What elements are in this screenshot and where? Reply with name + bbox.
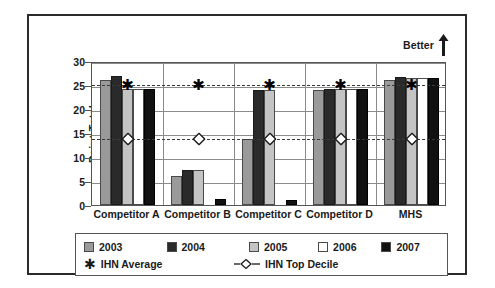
legend-swatch: [381, 242, 391, 252]
y-tick-label: 5: [45, 176, 85, 188]
bar-2007: [144, 89, 155, 205]
legend-label: 2003: [99, 241, 122, 253]
bar-2006: [133, 89, 144, 205]
x-axis-label: Competitor C: [233, 208, 304, 220]
bar-2004: [324, 89, 335, 205]
diamond-icon: [121, 132, 134, 145]
bar-2003: [100, 80, 111, 205]
legend-ihn-average: ✱ IHN Average: [84, 258, 234, 270]
bar-2004: [253, 90, 264, 205]
x-axis-label: MHS: [375, 208, 446, 220]
legend-label: 2005: [264, 241, 287, 253]
diamond-icon: [263, 132, 276, 145]
y-tick-label: 0: [45, 200, 85, 212]
y-tick-mark: [85, 206, 91, 207]
bar-2004: [182, 170, 193, 205]
up-arrow-icon: [438, 34, 449, 56]
diamond-icon: [334, 132, 347, 145]
diamond-line-icon: [234, 258, 260, 270]
legend-item-2004: 2004: [167, 241, 250, 253]
bar-2007: [286, 200, 297, 205]
bar-2007: [215, 199, 226, 205]
bar-2007: [428, 78, 439, 205]
y-axis: 30 25 20 15 10 5 0: [29, 62, 91, 206]
legend-years-row: 20032004200520062007: [84, 238, 439, 255]
chart-figure-frame: Better Point Total 30 25 20 15 10 5 0 ✱✱…: [27, 14, 467, 275]
legend-item-2007: 2007: [381, 241, 439, 253]
x-axis-label: Competitor B: [162, 208, 233, 220]
x-axis-label: Competitor A: [91, 208, 162, 220]
bar-2005: [264, 90, 275, 205]
bar-2005: [335, 89, 346, 205]
bar-2005: [193, 170, 204, 205]
legend-item-2003: 2003: [84, 241, 167, 253]
bar-2003: [313, 90, 324, 205]
better-label: Better: [403, 39, 434, 51]
legend-item-2006: 2006: [318, 241, 381, 253]
bar-2006: [417, 78, 428, 205]
plot-area: ✱✱✱✱✱: [91, 62, 446, 206]
legend-reference-row: ✱ IHN Average IHN Top Decile: [84, 255, 439, 272]
legend-item-2005: 2005: [249, 241, 318, 253]
legend-label: 2004: [182, 241, 205, 253]
legend-swatch: [167, 242, 177, 252]
legend-ihn-top-decile: IHN Top Decile: [234, 258, 338, 270]
legend-label: IHN Top Decile: [265, 258, 338, 270]
diamond-icon: [405, 132, 418, 145]
y-tick-label: 15: [45, 128, 85, 140]
legend-swatch: [84, 242, 94, 252]
y-tick-label: 30: [45, 56, 85, 68]
diamond-icon: [192, 132, 205, 145]
bar-2003: [384, 80, 395, 205]
y-tick-label: 10: [45, 152, 85, 164]
better-annotation: Better: [403, 37, 449, 53]
legend-swatch: [318, 242, 328, 252]
bar-2005: [122, 89, 133, 205]
bar-2007: [357, 89, 368, 205]
bar-2003: [242, 139, 253, 205]
legend-label: 2007: [396, 241, 419, 253]
bar-2006: [346, 89, 357, 205]
legend-label: IHN Average: [101, 258, 163, 270]
x-axis-label: Competitor D: [304, 208, 375, 220]
legend-label: 2006: [333, 241, 356, 253]
legend-swatch: [249, 242, 259, 252]
y-tick-label: 20: [45, 104, 85, 116]
x-axis-labels: Competitor ACompetitor BCompetitor CComp…: [91, 208, 446, 224]
chart-legend: 20032004200520062007 ✱ IHN Average IHN T…: [75, 233, 448, 276]
bar-2003: [171, 176, 182, 205]
star-icon: ✱: [84, 259, 96, 269]
y-tick-label: 25: [45, 80, 85, 92]
